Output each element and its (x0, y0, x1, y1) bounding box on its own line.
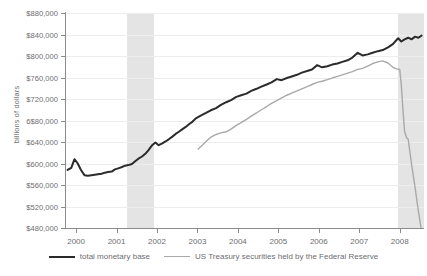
y-tick-label: $520,000 (26, 202, 58, 211)
legend-line-icon (49, 256, 75, 258)
x-tick-label: 2005 (269, 237, 287, 246)
y-tick-label: $480,000 (26, 224, 58, 233)
series-line (68, 36, 422, 176)
y-tick-label: $560,000 (26, 181, 58, 190)
legend-label: total monetary base (80, 252, 150, 261)
x-tick-label: 2007 (350, 237, 368, 246)
series-line (198, 61, 421, 231)
series-lines (66, 13, 424, 228)
x-tick-label: 2006 (310, 237, 328, 246)
y-tick-label: $720,000 (26, 95, 58, 104)
x-tick-label: 2004 (229, 237, 247, 246)
x-tick-label: 2008 (391, 237, 409, 246)
y-tick-label: $840,000 (26, 30, 58, 39)
y-tick-label: $600,000 (26, 159, 58, 168)
legend-label: US Treasury securities held by the Feder… (195, 252, 378, 261)
legend-item[interactable]: US Treasury securities held by the Feder… (164, 252, 378, 261)
legend-item[interactable]: total monetary base (49, 252, 150, 261)
x-tick-label: 2002 (148, 237, 166, 246)
plot-area: $880,000$840,000$800,000$760,000$720,000… (66, 13, 424, 228)
chart-legend: total monetary baseUS Treasury securitie… (0, 252, 427, 261)
y-tick-label: $640,000 (26, 138, 58, 147)
y-axis-line (65, 12, 66, 229)
chart-container: billions of dollars $880,000$840,000$800… (0, 0, 427, 276)
x-tick-label: 2003 (189, 237, 207, 246)
x-axis-line (65, 228, 424, 229)
y-tick-label: $800,000 (26, 52, 58, 61)
y-tick-label: $880,000 (26, 9, 58, 18)
y-axis-title: billions of dollars (12, 55, 21, 175)
legend-line-icon (164, 256, 190, 257)
x-tick-label: 2000 (67, 237, 85, 246)
y-tick-label: 6$80,000 (26, 116, 58, 125)
x-tick-label: 2001 (108, 237, 126, 246)
y-tick-label: $760,000 (26, 73, 58, 82)
